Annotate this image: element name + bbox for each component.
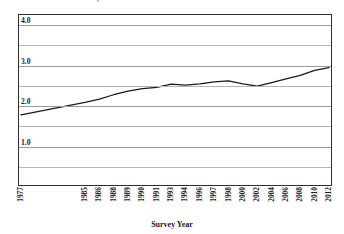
- plot-area: [18, 14, 332, 186]
- x-axis-tick-label: 1985: [81, 187, 88, 202]
- x-axis-title: Survey Year: [0, 220, 344, 229]
- x-axis-tick-label: 2008: [296, 187, 303, 202]
- gridline-major: [19, 147, 331, 148]
- gridline-minor: [19, 45, 331, 46]
- x-axis-tick-label: 1988: [110, 187, 117, 202]
- data-line-series: [19, 15, 333, 187]
- gridline-minor: [19, 167, 331, 168]
- gridline-major: [19, 25, 331, 26]
- x-axis-tick-label: 1993: [167, 187, 174, 202]
- y-axis-tick-label: 2.0: [21, 97, 31, 106]
- gridline-minor: [19, 86, 331, 87]
- x-axis-tick-label: 1998: [225, 187, 232, 202]
- x-axis-tick-label: 2000: [239, 187, 246, 202]
- x-axis-tick-label: 2012: [325, 187, 332, 202]
- chart-title: General Attitudes Scale, 1977 - 2012: [14, 0, 141, 2]
- series-general-attitudes-scale: [21, 68, 329, 115]
- x-axis-tick-label: 1996: [196, 187, 203, 202]
- x-axis-tick-label: 1977: [17, 187, 24, 202]
- x-axis-tick-label: 1997: [210, 187, 217, 202]
- gridline-major: [19, 106, 331, 107]
- x-axis-labels: 1977198519861988198919901991199319941996…: [18, 187, 332, 219]
- x-axis-tick-label: 2006: [282, 187, 289, 202]
- x-axis-tick-label: 1989: [124, 187, 131, 202]
- x-axis-tick-label: 1986: [95, 187, 102, 202]
- y-axis-tick-label: 1.0: [21, 138, 31, 147]
- y-axis-tick-label: 3.0: [21, 57, 31, 66]
- gridline-major: [19, 66, 331, 67]
- x-axis-tick-label: 2004: [268, 187, 275, 202]
- x-axis-tick-label: 1994: [181, 187, 188, 202]
- x-axis-tick-label: 2010: [311, 187, 318, 202]
- x-axis-tick-label: 1991: [153, 187, 160, 202]
- gridline-minor: [19, 126, 331, 127]
- x-axis-tick-label: 2002: [253, 187, 260, 202]
- y-axis-tick-label: 4.0: [21, 16, 31, 25]
- x-axis-tick-label: 1990: [138, 187, 145, 202]
